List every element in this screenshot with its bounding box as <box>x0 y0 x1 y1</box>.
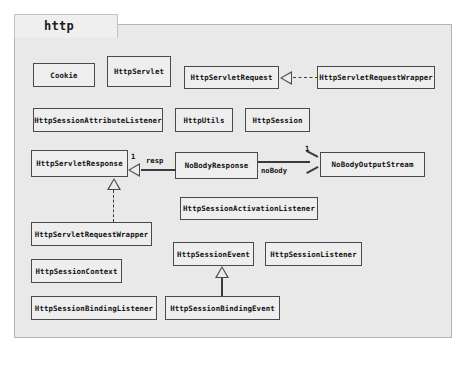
multiplicity-resp: 1 <box>131 152 135 161</box>
hollow-triangle-response <box>128 163 140 177</box>
class-box-no-body-output-stream[interactable]: NoBodyOutputStream <box>320 152 425 177</box>
generalization-line-session-event <box>221 278 223 296</box>
class-label: Cookie <box>50 71 77 80</box>
class-label: HttpSessionActivationListener <box>183 204 315 213</box>
class-box-http-session-context[interactable]: HttpSessionContext <box>31 259 122 283</box>
class-label: NoBodyOutputStream <box>332 160 414 169</box>
class-box-http-session-attribute-listener[interactable]: HttpSessionAttributeListener <box>33 108 163 132</box>
class-label: HttpSessionListener <box>270 250 356 259</box>
class-label: HttpServletRequest <box>191 73 273 82</box>
class-box-http-servlet-request[interactable]: HttpServletRequest <box>184 66 279 89</box>
generalization-line-response <box>141 169 176 171</box>
class-box-http-servlet-request-wrapper[interactable]: HttpServletRequestWrapper <box>31 222 152 246</box>
class-label: HttpUtils <box>184 116 225 125</box>
hollow-triangle-response-wrapper <box>107 178 121 190</box>
class-box-http-utils[interactable]: HttpUtils <box>175 108 233 132</box>
realization-line-response-wrapper <box>113 190 114 222</box>
class-label: HttpServletRequestWrapper <box>319 73 433 82</box>
hollow-triangle-session-event <box>215 266 229 278</box>
uml-class-diagram: http Cookie HttpServlet HttpServletReque… <box>0 0 464 365</box>
role-label-resp: resp <box>146 156 163 165</box>
class-box-http-session-binding-listener[interactable]: HttpSessionBindingListener <box>31 296 157 320</box>
realization-line-request <box>293 77 318 78</box>
multiplicity-nobody: 1 <box>305 144 309 153</box>
class-box-http-session-event[interactable]: HttpSessionEvent <box>173 242 254 266</box>
class-label: HttpSessionEvent <box>177 250 250 259</box>
hollow-triangle-request <box>280 71 292 85</box>
class-box-http-session-binding-event[interactable]: HttpSessionBindingEvent <box>165 296 280 320</box>
role-label-nobody: noBody <box>261 166 287 175</box>
class-label: HttpSession <box>252 116 302 125</box>
class-box-http-session-listener[interactable]: HttpSessionListener <box>265 242 362 266</box>
class-box-http-servlet-response[interactable]: HttpServletResponse <box>31 150 128 177</box>
class-label: HttpServlet <box>114 67 164 76</box>
open-arrow-nobody <box>305 155 318 168</box>
class-box-http-session[interactable]: HttpSession <box>245 108 310 132</box>
class-box-http-session-activation-listener[interactable]: HttpSessionActivationListener <box>180 197 318 220</box>
class-box-http-servlet-request-wrapper-top[interactable]: HttpServletRequestWrapper <box>317 66 435 89</box>
class-label: HttpServletResponse <box>36 159 122 168</box>
class-box-cookie[interactable]: Cookie <box>33 63 95 87</box>
association-line-nobody <box>258 161 310 163</box>
package-title: http <box>44 19 74 33</box>
class-label: HttpServletRequestWrapper <box>35 230 149 239</box>
class-box-http-servlet[interactable]: HttpServlet <box>107 56 171 87</box>
class-label: HttpSessionAttributeListener <box>34 116 161 125</box>
class-label: HttpSessionBindingEvent <box>170 304 275 313</box>
class-label: HttpSessionBindingListener <box>35 304 153 313</box>
class-label: NoBodyResponse <box>185 161 249 170</box>
class-box-no-body-response[interactable]: NoBodyResponse <box>175 152 258 179</box>
class-label: HttpSessionContext <box>36 267 118 276</box>
